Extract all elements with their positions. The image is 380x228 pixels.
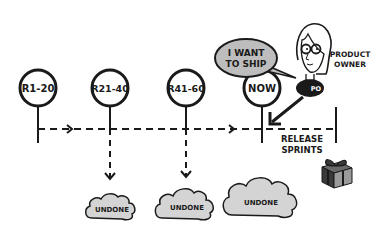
undone-cloud: UNDONE bbox=[223, 178, 296, 218]
milestone-r1-20: R1-20 bbox=[20, 70, 56, 143]
product-owner-figure: PO bbox=[296, 24, 331, 97]
product-owner-label: PRODUCT bbox=[330, 50, 371, 59]
milestone-label: R21-40 bbox=[91, 83, 129, 94]
cloud-label: UNDONE bbox=[244, 199, 278, 207]
release-sprints-label: RELEASE bbox=[281, 134, 323, 144]
speech-line: I WANT bbox=[228, 48, 266, 58]
release-diagram: R1-20 R21-40 R41-60 NOW RELEASE SPRINTS … bbox=[0, 0, 380, 228]
product-owner-label: OWNER bbox=[334, 60, 366, 69]
cloud-label: UNDONE bbox=[95, 206, 129, 214]
milestone-label: R1-20 bbox=[22, 83, 55, 94]
undone-cloud: UNDONE bbox=[86, 194, 135, 220]
gift-icon bbox=[322, 160, 352, 188]
cloud-label: UNDONE bbox=[170, 204, 204, 212]
milestone-label: NOW bbox=[248, 83, 276, 94]
milestone-r21-40: R21-40 bbox=[91, 70, 129, 179]
milestone-r41-60: R41-60 bbox=[167, 70, 205, 177]
milestone-now: NOW bbox=[244, 70, 280, 143]
undone-cloud: UNDONE bbox=[155, 189, 213, 220]
release-sprints-label: SPRINTS bbox=[281, 145, 322, 155]
speech-bubble: I WANT TO SHIP bbox=[215, 39, 296, 78]
speech-line: TO SHIP bbox=[226, 59, 267, 69]
milestone-label: R41-60 bbox=[167, 83, 205, 94]
po-badge: PO bbox=[311, 85, 322, 93]
